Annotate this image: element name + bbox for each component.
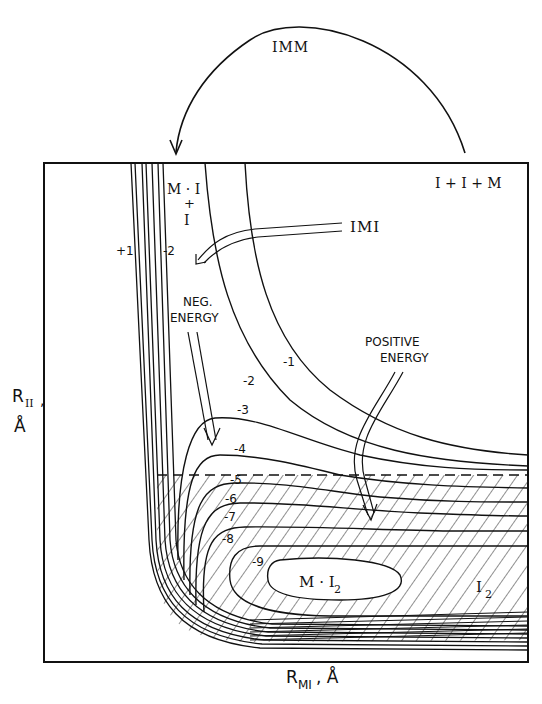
contour-label-minus5: -5 <box>230 473 242 487</box>
region-mi-line3: I <box>184 212 190 228</box>
contour-label-minus1: -1 <box>283 355 295 369</box>
region-i2-sub: 2 <box>485 588 492 601</box>
y-axis-label: R II , Å <box>12 386 44 436</box>
region-mi-line2: + <box>184 196 195 211</box>
positive-energy-label-line1: POSITIVE <box>365 335 420 349</box>
contour-label-minus8: -8 <box>222 532 234 546</box>
x-axis-label: R MI , Å <box>286 666 339 692</box>
svg-text:R: R <box>12 386 24 406</box>
svg-text:,: , <box>40 392 44 408</box>
region-i2: I <box>476 578 482 596</box>
contour-label-minus2: -2 <box>243 374 255 388</box>
contour-label-minus9: -9 <box>252 555 264 569</box>
contour-label-minus2-top: -2 <box>163 244 175 258</box>
region-mi2: M · I <box>299 573 335 591</box>
contour-label-minus6: -6 <box>225 492 237 506</box>
imi-label: IMI <box>350 218 380 236</box>
contour-minus1 <box>245 163 528 455</box>
positive-energy-label-line2: ENERGY <box>380 351 429 365</box>
svg-text:R: R <box>286 667 298 687</box>
svg-text:Å: Å <box>14 415 26 436</box>
contour-label-plus1: +1 <box>116 244 134 258</box>
contour-diagram: IMM <box>0 0 542 704</box>
contour-label-minus3: -3 <box>237 403 249 417</box>
svg-text:II: II <box>25 397 34 410</box>
region-mi2-sub: 2 <box>334 583 341 596</box>
neg-energy-label-line1: NEG. <box>183 295 213 309</box>
imm-arrow <box>170 27 465 154</box>
svg-text:MI: MI <box>298 678 312 692</box>
imm-label: IMM <box>272 39 309 55</box>
region-i-i-m: I + I + M <box>435 175 502 191</box>
svg-text:, Å: , Å <box>316 666 339 687</box>
contour-label-minus4: -4 <box>234 442 246 456</box>
contour-label-minus7: -7 <box>224 510 236 524</box>
neg-energy-label-line2: ENERGY <box>170 311 219 325</box>
region-mi-line1: M · I <box>167 181 200 197</box>
neg-energy-arrow <box>188 332 220 445</box>
